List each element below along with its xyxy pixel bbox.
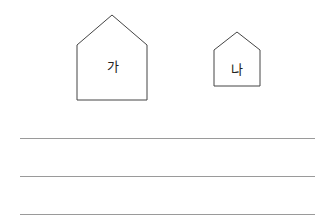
answer-line-1 bbox=[20, 138, 315, 139]
house-label-b: 나 bbox=[231, 59, 243, 78]
answer-line-3 bbox=[20, 214, 315, 215]
answer-line-2 bbox=[20, 176, 315, 177]
house-label-a: 가 bbox=[107, 56, 119, 75]
figures-canvas bbox=[0, 0, 329, 224]
